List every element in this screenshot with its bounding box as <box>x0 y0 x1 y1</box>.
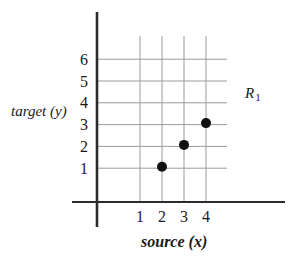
data-point-4-3 <box>201 118 211 128</box>
y-axis-label: target (y) <box>11 103 67 120</box>
y-tick-label-3: 3 <box>80 116 88 133</box>
x-tick-label-1: 1 <box>136 208 144 225</box>
y-tick-label-6: 6 <box>80 51 88 68</box>
y-tick-label-1: 1 <box>80 160 88 177</box>
x-tick-label-3: 3 <box>180 208 188 225</box>
x-tick-label-2: 2 <box>158 208 166 225</box>
relation-name-label: R1 <box>245 85 261 103</box>
x-tick-label-4: 4 <box>202 208 210 225</box>
data-point-2-1 <box>157 162 167 172</box>
y-tick-label-2: 2 <box>80 138 88 155</box>
relation-name-main: R <box>245 85 254 101</box>
x-axis-label: source (x) <box>141 233 207 251</box>
y-tick-label-4: 4 <box>80 94 88 111</box>
y-tick-label-5: 5 <box>80 73 88 90</box>
relation-name-subscript: 1 <box>255 91 261 103</box>
plot-canvas: 1234123456 <box>0 0 296 262</box>
relation-plot-figure: 1234123456 target (y) source (x) R1 <box>0 0 296 262</box>
data-point-3-2 <box>179 140 189 150</box>
